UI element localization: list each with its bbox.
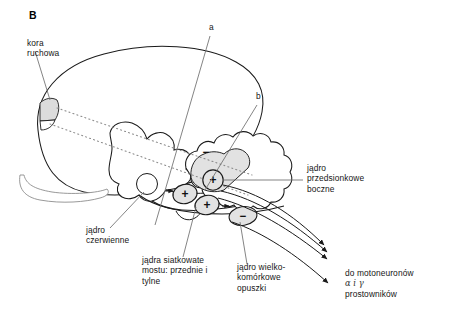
- motoneuron-target-line1: do motoneuronów: [345, 268, 414, 278]
- magnocellular-medullary-nucleus: −: [228, 205, 259, 228]
- motoneuron-target-line3: prostowników: [345, 289, 414, 299]
- label-magnocellular-medullary-nucleus: jądro wielko- komórkowe opuszki: [237, 262, 285, 293]
- label-red-nucleus: jądro czerwienne: [86, 225, 129, 246]
- label-motoneuron-target: do motoneuronów α i γ prostowników: [345, 268, 414, 299]
- sign-medullary: −: [240, 210, 247, 222]
- label-lateral-vestibular-nucleus: jądro przedsionkowe boczne: [307, 163, 364, 194]
- motoneuron-target-line2: α i γ: [345, 278, 414, 288]
- label-pontine-reticular-nuclei: jądra siatkowate mostu: przednie i tylne: [142, 255, 207, 286]
- label-motor-cortex: kora ruchowa: [27, 38, 59, 59]
- sign-pontine-anterior: +: [181, 187, 188, 201]
- sign-pontine-posterior: +: [203, 198, 210, 212]
- pointer-label-a: a: [209, 22, 214, 32]
- pointer-label-b: b: [256, 91, 261, 101]
- red-nucleus: [137, 174, 158, 195]
- panel-letter-b: B: [29, 9, 37, 21]
- lateral-vestibular-nucleus: +: [203, 170, 223, 190]
- sign-cerebellar-vermis: −: [203, 146, 210, 158]
